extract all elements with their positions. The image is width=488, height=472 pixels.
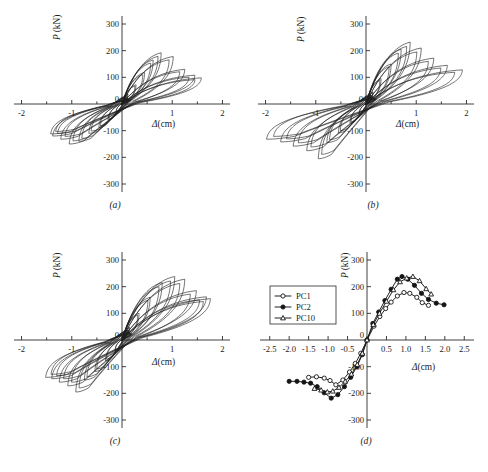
panel-b-y-unit: (kN): [296, 17, 307, 35]
x-tick-label: 2.0: [439, 344, 450, 354]
panel-d: -2.5-2.0-1.5-1.0-0.500.51.01.52.02.53002…: [244, 236, 488, 472]
hysteresis-figure: -2-1012300200100-100-200-300 P(kN) Δ(cm)…: [0, 0, 488, 472]
x-tick-label: 2: [464, 108, 468, 118]
panel-a-y-symbol: P: [52, 34, 62, 41]
data-point-PC1: [328, 378, 332, 382]
y-tick-label: 200: [106, 282, 119, 292]
data-point-PC2: [308, 381, 312, 385]
x-tick-label: 1: [170, 108, 174, 118]
y-tick-label: -200: [103, 388, 119, 398]
data-point-PC1: [395, 294, 399, 298]
data-point-PC2: [434, 301, 438, 305]
x-tick-label: -2: [18, 108, 25, 118]
panel-c-y-symbol: P: [52, 272, 62, 279]
panel-a-y-axis-title: P(kN): [52, 15, 63, 41]
x-tick-label: -2: [262, 108, 269, 118]
x-tick-label: -0.5: [341, 344, 355, 354]
panel-d-legend: PC1PC2PC10: [270, 286, 336, 324]
y-tick-label: 200: [350, 46, 363, 56]
y-tick-label: 200: [351, 282, 364, 292]
x-tick-label: -2.5: [263, 344, 277, 354]
panel-d-y-axis-title: P(kN): [340, 253, 351, 279]
data-point-PC2: [336, 393, 340, 397]
data-point-PC2: [442, 303, 446, 307]
x-tick-label: 0.5: [381, 344, 392, 354]
data-point-PC10: [325, 390, 330, 394]
data-point-PC2: [419, 291, 423, 295]
legend-label-PC1: PC1: [296, 291, 311, 301]
x-tick-label: -1.0: [321, 344, 335, 354]
data-point-PC1: [389, 300, 393, 304]
data-point-PC10: [417, 278, 422, 282]
x-tick-label: -1: [312, 108, 319, 118]
data-point-PC2: [329, 396, 333, 400]
hysteresis-loop: [327, 49, 401, 142]
legend-marker-PC1: [281, 294, 285, 298]
x-tick-label: 1.0: [401, 344, 412, 354]
panel-c-label: (c): [110, 435, 121, 447]
data-point-PC1: [415, 295, 419, 299]
panel-c-x-unit: (cm): [158, 357, 176, 368]
y-tick-label: -300: [347, 179, 363, 189]
data-point-PC2: [400, 274, 404, 278]
panel-d-x-axis-title: Δ(cm): [411, 362, 435, 373]
y-tick-label: 100: [350, 72, 363, 82]
data-point-PC1: [314, 375, 318, 379]
panel-b-x-axis-title: Δ(cm): [395, 119, 419, 130]
panel-b-hysteresis-loops: [267, 42, 463, 159]
data-point-PC1: [307, 375, 311, 379]
panel-a-hysteresis-loops: [51, 53, 202, 144]
data-point-PC2: [287, 379, 291, 383]
y-tick-label: -100: [103, 126, 119, 136]
legend-label-PC2: PC2: [296, 302, 311, 312]
x-tick-label: 1: [170, 344, 174, 354]
panel-b-plot: -2-1012300200100-100-200-300 P(kN) Δ(cm)…: [244, 0, 488, 236]
panel-c-plot: -2-1012300200100-100-200-300 P(kN) Δ(cm)…: [0, 236, 244, 472]
panel-c-hysteresis-loops: [46, 277, 211, 392]
x-tick-label: 1: [414, 108, 418, 118]
x-tick-label: 2: [220, 108, 224, 118]
data-point-PC1: [426, 303, 430, 307]
panel-b-y-axis-title: P(kN): [296, 17, 307, 43]
y-tick-label: 100: [351, 308, 364, 318]
x-tick-label: 0: [360, 330, 364, 340]
data-point-PC10: [404, 276, 409, 280]
hysteresis-loop: [89, 60, 153, 133]
data-point-PC2: [295, 379, 299, 383]
data-point-PC1: [402, 290, 406, 294]
panel-d-label: (d): [360, 435, 371, 447]
y-tick-label: -300: [348, 415, 364, 425]
data-point-PC2: [426, 297, 430, 301]
x-tick-label: 2.5: [459, 344, 470, 354]
x-tick-label: -2.0: [282, 344, 296, 354]
panel-b-label: (b): [367, 199, 378, 211]
y-tick-label: 100: [106, 308, 119, 318]
y-tick-label: -300: [103, 415, 119, 425]
panel-d-plot: -2.5-2.0-1.5-1.0-0.500.51.01.52.02.53002…: [244, 236, 488, 472]
panel-b: -2-1012300200100-100-200-300 P(kN) Δ(cm)…: [244, 0, 488, 236]
data-point-PC1: [322, 376, 326, 380]
y-tick-label: -200: [103, 152, 119, 162]
panel-d-x-unit: (cm): [418, 362, 436, 373]
data-point-PC1: [384, 306, 388, 310]
panel-a-label: (a): [109, 199, 120, 211]
hysteresis-loop: [293, 58, 434, 146]
data-point-PC10: [411, 274, 416, 278]
data-point-PC1: [408, 291, 412, 295]
hysteresis-loop: [298, 61, 428, 142]
x-tick-label: 1.5: [420, 344, 431, 354]
y-tick-label: 300: [351, 255, 364, 265]
y-tick-label: 300: [106, 255, 119, 265]
hysteresis-loop: [350, 79, 381, 124]
panel-a-y-unit: (kN): [52, 15, 63, 33]
panel-b-y-symbol: P: [296, 36, 306, 43]
y-tick-label: -200: [348, 388, 364, 398]
y-tick-label: 300: [106, 19, 119, 29]
panel-a-plot: -2-1012300200100-100-200-300 P(kN) Δ(cm)…: [0, 0, 244, 236]
y-tick-label: -300: [103, 179, 119, 189]
panel-d-y-symbol: P: [340, 272, 350, 279]
x-tick-label: 2: [220, 344, 224, 354]
panel-c-x-axis-title: Δ(cm): [151, 357, 175, 368]
panel-c-y-unit: (kN): [52, 253, 63, 271]
x-tick-label: -1.5: [302, 344, 316, 354]
